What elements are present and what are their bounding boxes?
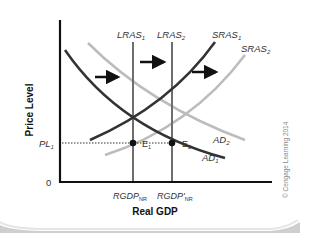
- y-axis-title: Price Level: [24, 83, 35, 136]
- diagram-frame: LRAS1 LRAS2 SRAS1 SRAS2 AD2 AD1 E1 E2 PL…: [0, 0, 310, 233]
- origin-label: 0: [46, 177, 51, 188]
- ad2-label: AD2: [212, 134, 230, 146]
- ad-as-diagram: LRAS1 LRAS2 SRAS1 SRAS2 AD2 AD1 E1 E2 PL…: [0, 0, 310, 233]
- ad2-curve: [88, 43, 245, 140]
- e1-point: [130, 140, 137, 147]
- sras1-curve: [90, 42, 215, 140]
- e2-label: E2: [182, 139, 191, 150]
- pl1-label: PL1: [39, 138, 54, 150]
- sras2-label: SRAS2: [241, 43, 271, 55]
- copyright-credit: © Cengage Learning 2014: [282, 122, 289, 198]
- e1-label: E1: [142, 139, 151, 150]
- lras2-label: LRAS2: [157, 29, 186, 41]
- ad1-label: AD1: [201, 152, 219, 164]
- lras1-label: LRAS1: [117, 29, 145, 41]
- e2-point: [169, 140, 176, 147]
- rgdp-nr-prime-label: RGDP'NR: [157, 191, 193, 202]
- sras1-label: SRAS1: [212, 29, 241, 41]
- rgdp-nr-label: RGDPNR: [113, 191, 147, 202]
- x-axis-title: Real GDP: [132, 206, 178, 217]
- frame-shadow: [0, 222, 300, 233]
